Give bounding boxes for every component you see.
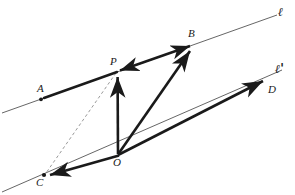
label-line-l: ℓ (278, 6, 283, 18)
diagram-canvas (0, 0, 295, 195)
label-point-p: P (110, 56, 117, 67)
label-line-l-prime: ℓ' (275, 63, 284, 75)
label-point-c: C (36, 177, 43, 188)
label-point-b: B (188, 28, 195, 39)
label-point-o: O (113, 157, 121, 168)
vector-diagram-figure: A B C D O P ℓ ℓ' (0, 0, 295, 195)
point-dot-a (39, 97, 43, 101)
segment-a-to-p (44, 72, 117, 98)
vector-o-to-c (50, 156, 119, 176)
label-point-a: A (37, 83, 44, 94)
label-point-d: D (268, 84, 276, 95)
vector-o-to-d (118, 81, 263, 155)
